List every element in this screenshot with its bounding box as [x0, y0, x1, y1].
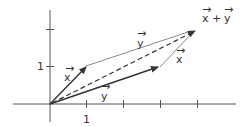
- vector-diagram: 1 1 x → y → y → x → x → + y →: [0, 0, 245, 127]
- arrow-accent: →: [176, 44, 185, 57]
- label-sum-plus: +: [212, 12, 221, 25]
- label-x-right: x →: [176, 44, 185, 66]
- label-y-vec: y →: [101, 80, 110, 103]
- label-sum: x → + y →: [202, 3, 233, 25]
- arrow-accent: →: [224, 3, 233, 16]
- arrow-accent: →: [65, 62, 74, 75]
- axes: 1 1: [13, 10, 236, 126]
- x-tick-label-1: 1: [83, 113, 90, 126]
- arrow-accent: →: [137, 27, 146, 40]
- arrow-accent: →: [202, 3, 211, 16]
- arrow-accent: →: [101, 80, 110, 93]
- y-tick-label-1: 1: [37, 60, 44, 73]
